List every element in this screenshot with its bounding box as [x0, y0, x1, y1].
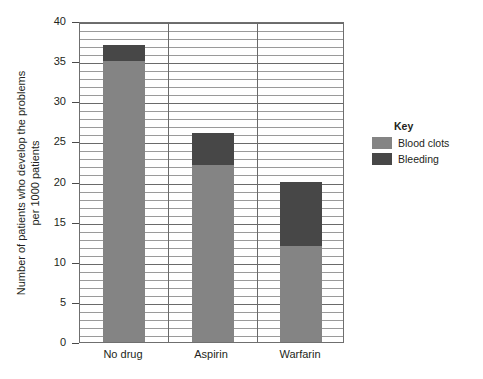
legend-item-label: Bleeding — [398, 153, 439, 165]
y-axis-tick — [72, 142, 79, 143]
y-axis-tick — [72, 22, 79, 23]
legend-swatch-icon — [372, 137, 392, 149]
legend-item-bleeding: Bleeding — [372, 153, 480, 165]
y-axis-tick — [72, 102, 79, 103]
y-axis-tick — [72, 343, 79, 344]
legend: Key Blood clotsBleeding — [372, 120, 480, 169]
legend-item-label: Blood clots — [398, 137, 449, 149]
y-axis-tick-label: 15 — [26, 217, 66, 228]
bar-warfarin — [280, 181, 322, 342]
bar-segment-bleeding — [192, 133, 234, 165]
y-axis-tick — [72, 62, 79, 63]
bar-segment-blood-clots — [280, 246, 322, 342]
bar-segment-blood-clots — [192, 165, 234, 342]
gridline-minor — [80, 39, 343, 40]
y-axis-tick-label: 10 — [26, 257, 66, 268]
x-axis-label-no-drug: No drug — [79, 349, 167, 360]
y-axis-tick-label: 5 — [26, 297, 66, 308]
x-axis-label-aspirin: Aspirin — [167, 349, 255, 360]
y-axis-tick-label: 20 — [26, 177, 66, 188]
legend-entries: Blood clotsBleeding — [372, 137, 480, 165]
gridline-minor — [80, 31, 343, 32]
gridline-major — [80, 23, 343, 24]
bar-segment-bleeding — [280, 182, 322, 246]
y-axis-tick-label: 0 — [26, 337, 66, 348]
y-axis-tick-label: 30 — [26, 96, 66, 107]
bar-segment-bleeding — [103, 45, 145, 61]
y-axis-tick-label: 35 — [26, 56, 66, 67]
bar-segment-blood-clots — [103, 61, 145, 342]
x-axis-label-warfarin: Warfarin — [256, 349, 344, 360]
bar-no-drug — [103, 45, 145, 342]
y-axis-tick — [72, 263, 79, 264]
bar-chart: Number of patients who develop the probl… — [0, 0, 483, 379]
bar-aspirin — [192, 133, 234, 342]
legend-item-blood-clots: Blood clots — [372, 137, 480, 149]
category-separator — [257, 23, 258, 342]
plot-area — [79, 22, 344, 343]
legend-title: Key — [394, 120, 480, 132]
y-axis-tick — [72, 183, 79, 184]
y-axis-tick — [72, 303, 79, 304]
category-separator — [168, 23, 169, 342]
y-axis-tick — [72, 223, 79, 224]
y-axis-tick-label: 25 — [26, 136, 66, 147]
legend-swatch-icon — [372, 153, 392, 165]
y-axis-tick-label: 40 — [26, 16, 66, 27]
